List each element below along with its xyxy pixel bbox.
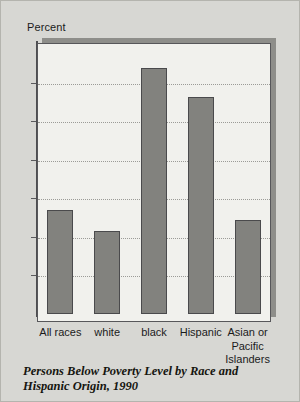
bar[interactable] [47,210,73,314]
x-tick-label: Asian or Pacific Islanders [220,326,275,367]
chart-figure: Percent Persons Below Poverty Level by R… [0,0,300,402]
bar[interactable] [141,68,167,314]
y-tick-mark [31,237,36,238]
y-tick-mark [31,198,36,199]
bar[interactable] [188,97,214,314]
y-axis-title: Percent [27,21,66,33]
y-tick-mark [31,121,36,122]
y-tick-mark [31,275,36,276]
figure-caption: Persons Below Poverty Level by Race and … [23,364,281,394]
y-tick-mark [31,83,36,84]
bar[interactable] [235,220,261,314]
y-tick-mark [31,160,36,161]
bar[interactable] [94,231,120,314]
